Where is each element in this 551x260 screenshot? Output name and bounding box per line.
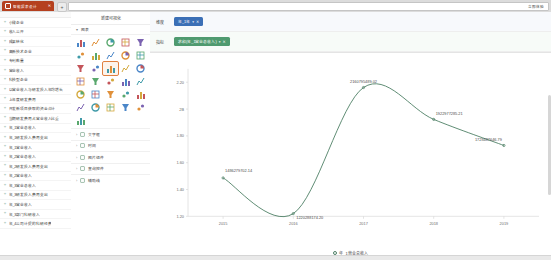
svg-text:2017: 2017 (359, 221, 368, 226)
curve-chart-icon[interactable] (73, 88, 88, 101)
field-label: 收入公开 (9, 29, 25, 34)
field-list-item[interactable]: ⌗科技型企业 (0, 76, 71, 86)
column-chart-icon[interactable] (103, 36, 118, 49)
histogram-icon[interactable] (133, 36, 148, 49)
component-section[interactable]: ›文字框 (71, 128, 150, 140)
scatter-chart-icon[interactable] (88, 62, 103, 75)
mixed-chart-icon[interactable] (73, 114, 88, 127)
chevron-down-icon[interactable]: ▾ (192, 20, 194, 24)
table-grid-icon[interactable] (103, 88, 118, 101)
application-window: 智能报表设计 ✕ + 立即体验 ⌗小微企业⌗收入公开⌗成果转化⌗高新技术企业⌗专… (0, 0, 551, 260)
gauge-chart-icon[interactable] (103, 49, 118, 62)
component-section[interactable]: ›图片组件 (71, 151, 150, 163)
field-label: 当期研发费用占营业收入比重 (9, 116, 60, 121)
line-chart-icon[interactable] (103, 62, 118, 75)
field-list-item[interactable]: ⌗年_1营业收入 (0, 143, 71, 153)
field-list-item[interactable]: ⌗年_1研发投入费用支出 (0, 133, 71, 143)
donut-chart-icon[interactable] (118, 49, 133, 62)
line-chart[interactable]: 2.202B1.801.601.401.20201520162017201820… (154, 55, 547, 246)
type-pane-group-header[interactable]: ▾ 图表 (71, 25, 150, 35)
stacked-bar-icon[interactable] (118, 36, 133, 49)
matrix-icon[interactable] (118, 88, 133, 101)
line-chart-svg[interactable]: 2.202B1.801.601.401.20201520162017201820… (154, 55, 547, 246)
kpi-card-icon[interactable] (133, 88, 148, 101)
target-chart-icon[interactable] (88, 88, 103, 101)
shelf-row[interactable]: 指标求和(年_1营业总收入)▾✕ (150, 32, 551, 52)
radar-chart-icon[interactable] (118, 62, 133, 75)
field-list-item[interactable]: ⌗高新技术企业 (0, 47, 71, 57)
remove-icon[interactable]: ✕ (196, 19, 199, 24)
browser-tab[interactable]: 智能报表设计 ✕ (2, 1, 54, 11)
remove-icon[interactable]: ✕ (223, 39, 226, 44)
pie-chart-icon[interactable] (133, 49, 148, 62)
people-chart-icon[interactable] (88, 49, 103, 62)
field-label: 年_3研发投入费用支出 (9, 192, 48, 197)
field-list-item[interactable]: ⌗收入公开 (0, 28, 71, 38)
abc-icon: ⌗ (3, 49, 7, 53)
sankey-icon[interactable] (118, 101, 133, 114)
hbar-chart-icon[interactable] (73, 49, 88, 62)
field-label: 以营业收入与研发投入年均增长 (9, 87, 64, 92)
shelf-row[interactable]: 维度年_1年▾✕ (150, 12, 551, 32)
heatmap-icon[interactable] (133, 101, 148, 114)
chevron-down-icon[interactable]: ▾ (219, 40, 221, 44)
component-section[interactable]: ›查询控件 (71, 163, 150, 175)
svg-text:1.60: 1.60 (176, 160, 184, 165)
svg-text:1486279702.14: 1486279702.14 (225, 168, 253, 173)
field-list-item[interactable]: ⌗营业收入 (0, 66, 71, 76)
shelf-pill[interactable]: 求和(年_1营业总收入)▾✕ (174, 37, 230, 46)
field-list-item[interactable]: ⌗年_3营业收入 (0, 200, 71, 210)
chart-canvas[interactable]: 2.202B1.801.601.401.20201520162017201820… (150, 53, 551, 260)
funnel-icon[interactable] (88, 75, 103, 88)
image-icon (80, 155, 85, 160)
field-list-item[interactable]: ⌗年_2营业总收入 (0, 152, 71, 162)
field-list-item[interactable]: ⌗年_3部门科研收入 (0, 210, 71, 220)
field-list-item[interactable]: ⌗年_2研发投入费用支出 (0, 162, 71, 172)
chevron-down-icon: ▾ (76, 27, 78, 32)
leaf-chart-icon[interactable] (133, 62, 148, 75)
abc-icon: ⌗ (3, 107, 7, 111)
field-list-item[interactable]: ⌗专利数量 (0, 56, 71, 66)
field-list-item[interactable]: ⌗成果转化 (0, 37, 71, 47)
flag-chart-icon[interactable] (103, 75, 118, 88)
bubble-chart-icon[interactable] (73, 62, 88, 75)
filter-chart-icon[interactable] (73, 101, 88, 114)
bar-chart-icon[interactable] (73, 36, 88, 49)
funnel-filter-icon[interactable] (103, 101, 118, 114)
field-list-item[interactable]: ⌗年_3营业总收入 (0, 181, 71, 191)
field-list-item[interactable]: ⌗年_3研发投入费用支出 (0, 191, 71, 201)
component-section-label: 文字框 (88, 132, 100, 137)
star-chart-icon[interactable] (88, 101, 103, 114)
component-section-label: 查询控件 (88, 166, 104, 171)
field-list-item[interactable]: ⌗当期研发费用占营业收入比重 (0, 114, 71, 124)
field-list-item[interactable]: ⌗开发新项目获取的资金合计 (0, 104, 71, 114)
field-label: 年_1营业总收入 (9, 125, 36, 130)
abc-icon: ⌗ (3, 212, 7, 216)
area-chart-icon[interactable] (88, 36, 103, 49)
field-list-item[interactable]: ⌗年_2营业收入 (0, 172, 71, 182)
map-pin-icon[interactable] (133, 75, 148, 88)
vertical-scrollbar[interactable] (548, 95, 551, 195)
field-list-item[interactable]: ⌗上年度研发费用 (0, 95, 71, 105)
abc-icon: ⌗ (3, 136, 7, 140)
component-section[interactable]: ›辅助线 (71, 174, 150, 186)
abc-icon: ⌗ (3, 78, 7, 82)
shelf-pill[interactable]: 年_1年▾✕ (174, 17, 203, 26)
close-icon[interactable]: ✕ (48, 4, 51, 8)
chevron-right-icon: › (76, 178, 77, 183)
new-tab-button[interactable]: + (57, 2, 67, 12)
field-list-item[interactable]: ⌗年_1营业总收入 (0, 124, 71, 134)
type-pane-title: 新建可视化 (71, 12, 150, 25)
field-label: 年_2研发投入费用支出 (9, 164, 48, 169)
spark-line-icon[interactable] (118, 75, 133, 88)
component-section[interactable]: ›时间 (71, 140, 150, 152)
field-list-item[interactable]: ⌗以营业收入与研发投入年均增长 (0, 85, 71, 95)
component-sections: ›文字框›时间›图片组件›查询控件›辅助线 (71, 128, 150, 186)
field-list-item[interactable]: ⌗年_4公司计提的科研经费 (0, 219, 71, 229)
field-list-item[interactable]: ⌗小微企业 (0, 18, 71, 28)
abc-icon: ⌗ (3, 145, 7, 149)
address-bar[interactable]: 立即体验 (68, 2, 549, 11)
tree-chart-icon[interactable] (73, 75, 88, 88)
svg-text:1.20: 1.20 (176, 214, 184, 219)
field-list-pane[interactable]: ⌗小微企业⌗收入公开⌗成果转化⌗高新技术企业⌗专利数量⌗营业收入⌗科技型企业⌗以… (0, 12, 72, 260)
